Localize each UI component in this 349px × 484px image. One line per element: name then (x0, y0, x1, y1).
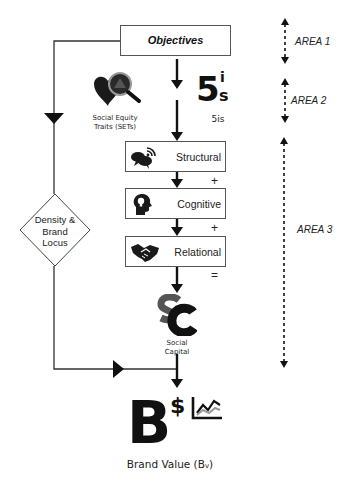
five-is-logo-sup: i (220, 70, 225, 84)
decision-line1: Density & (20, 214, 90, 226)
decision-line3: Locus (20, 237, 90, 249)
sets-caption-line1: Social Equity (74, 114, 156, 123)
area-1-label: AREA 1 (295, 36, 330, 47)
social-capital-caption-line2: Capital (155, 348, 199, 357)
handshake-icon (130, 240, 160, 264)
dollar-icon: $ (170, 395, 185, 417)
social-capital-logo-icon (157, 294, 197, 336)
plus-operator: + (211, 221, 218, 235)
relational-label: Relational (174, 246, 221, 258)
sets-caption-line2: Traits (SETs) (74, 123, 156, 132)
right-triangle-arrow-icon (113, 360, 124, 378)
brand-value-label: Brand Value (Bv) (110, 458, 230, 470)
objectives-label: Objectives (121, 34, 230, 46)
area-2-label: AREA 2 (291, 95, 326, 106)
down-triangle-arrow-icon (44, 113, 64, 124)
heart-magnifier-icon (90, 68, 146, 112)
five-is-logo-number: 5 (196, 72, 219, 106)
area-3-label: AREA 3 (297, 224, 332, 235)
social-capital-caption-line1: Social (155, 339, 199, 348)
structural-box: Structural (125, 141, 226, 172)
brand-value-b-logo: B (127, 397, 171, 449)
relational-box: Relational (125, 236, 226, 267)
line-chart-icon (191, 396, 223, 420)
sets-caption: Social Equity Traits (SETs) (74, 114, 156, 132)
objectives-box: Objectives (120, 25, 231, 56)
five-is-logo-sub: s (219, 88, 229, 104)
brand-value-paren: ) (209, 458, 213, 470)
density-brand-locus-label: Density & Brand Locus (20, 214, 90, 249)
decision-line2: Brand (20, 226, 90, 238)
equals-operator: = (211, 268, 218, 282)
brand-value-text: Brand Value (B (127, 458, 205, 470)
social-capital-caption: Social Capital (155, 339, 199, 357)
five-is-caption: 5is (200, 115, 236, 124)
head-lightbulb-icon (130, 192, 156, 216)
chat-bubbles-wifi-icon (130, 145, 156, 169)
structural-label: Structural (176, 151, 221, 163)
plus-operator: + (211, 174, 218, 188)
cognitive-label: Cognitive (177, 198, 221, 210)
cognitive-box: Cognitive (125, 188, 226, 219)
